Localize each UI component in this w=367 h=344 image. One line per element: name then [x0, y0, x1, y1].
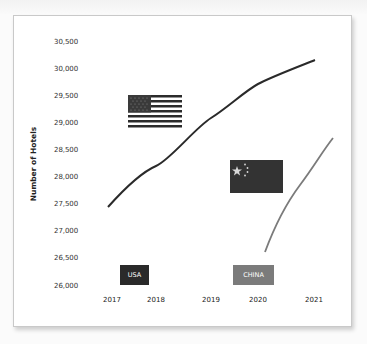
usa-flag-icon — [128, 95, 182, 128]
usa-line — [108, 60, 315, 207]
china-flag-icon — [230, 160, 283, 193]
plot-area — [0, 0, 367, 344]
china-line — [265, 138, 333, 252]
legend-china-badge: CHINA — [233, 265, 274, 285]
legend-usa-badge: USA — [120, 265, 149, 285]
